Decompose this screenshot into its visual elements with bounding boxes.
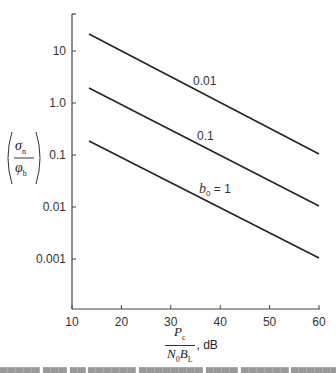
x-axis-unit: , dB bbox=[197, 338, 218, 352]
x-axis-label: Pc N0BL , dB bbox=[165, 324, 218, 366]
curve-label-0.01: 0.01 bbox=[193, 74, 217, 88]
x-tick-label: 60 bbox=[312, 315, 326, 329]
y-tick-label: 1.0 bbox=[49, 96, 66, 110]
y-tick-label: 0.01 bbox=[43, 200, 67, 214]
series-line bbox=[89, 141, 319, 258]
x-tick-label: 10 bbox=[65, 315, 79, 329]
figure-caption-cutoff: ▇▇▇▇▇ ▇▇▇ ▇▇ ▇▇▇▇▇▇ ▇▇▇▇▇▇▇▇ ▇▇▇▇ ▇▇▇▇▇▇… bbox=[0, 366, 336, 373]
y-tick-label: 10 bbox=[53, 44, 67, 58]
y-label-den: φ bbox=[15, 160, 23, 175]
curve-label-b0-1: b0 = 1 bbox=[199, 181, 231, 198]
curve-label-0.1: 0.1 bbox=[197, 129, 214, 143]
x-tick-label: 20 bbox=[115, 315, 129, 329]
y-tick-label: 0.001 bbox=[36, 252, 66, 266]
y-label-num: σ bbox=[15, 138, 22, 153]
y-tick-label: 0.1 bbox=[49, 148, 66, 162]
x-tick-label: 50 bbox=[263, 315, 277, 329]
y-axis-label: σn φb bbox=[4, 128, 44, 188]
chart-plot: 101.00.10.010.0011020304050600.010.1b0 =… bbox=[0, 0, 336, 373]
